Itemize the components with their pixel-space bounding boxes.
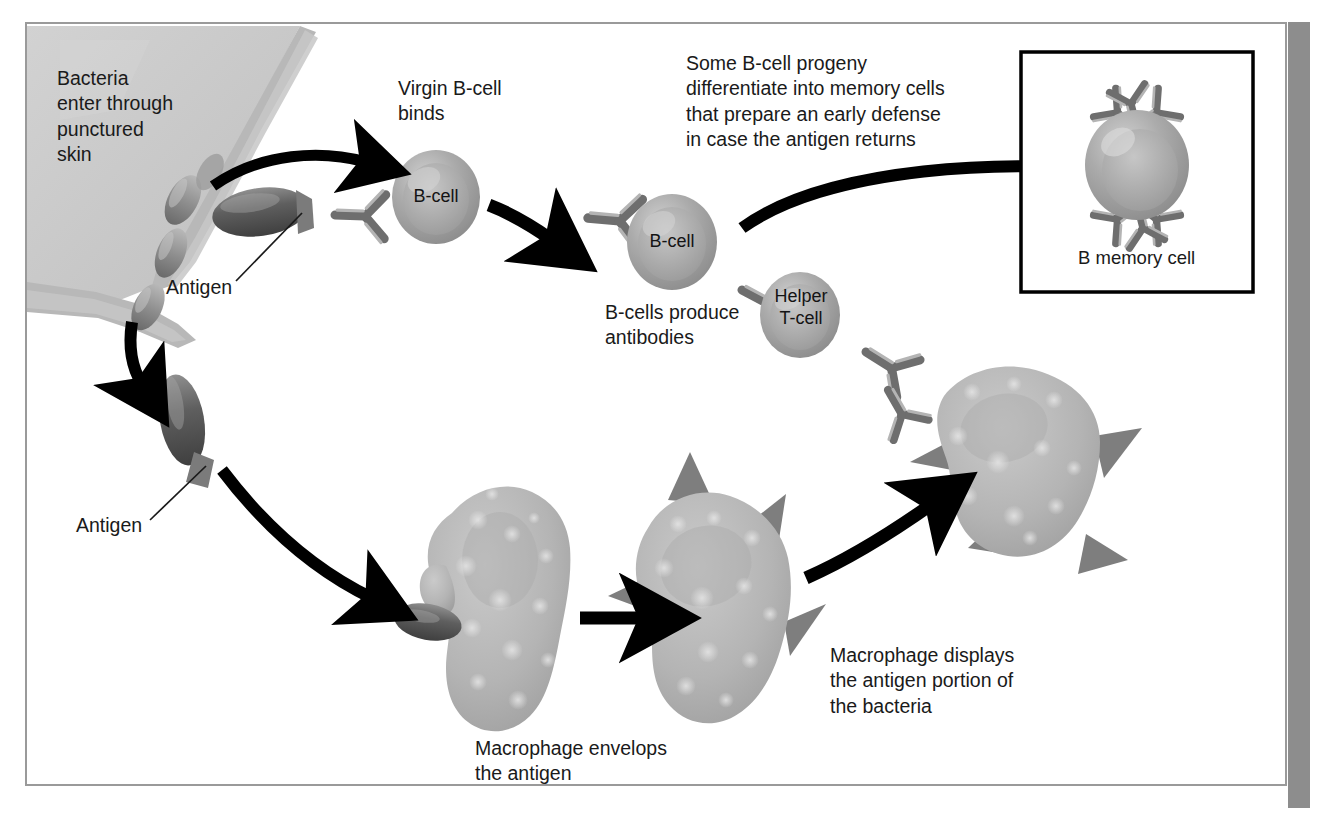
label-b-memory-cell: B memory cell: [1078, 246, 1195, 270]
macrophage-displays-middle: [608, 452, 826, 723]
label-antigen-top: Antigen: [166, 275, 232, 300]
label-helper-t-cell: Helper T-cell: [766, 286, 836, 329]
label-bcell-2: B-cell: [642, 231, 702, 253]
label-antigen-bottom: Antigen: [76, 513, 142, 538]
label-macrophage-displays: Macrophage displays the antigen portion …: [830, 643, 1014, 719]
diagram-canvas: [0, 0, 1330, 830]
bacterium-with-antigen-bottom: [152, 371, 214, 488]
label-macrophage-envelops: Macrophage envelops the antigen: [475, 736, 667, 787]
antibody-on-bacterium-top: [334, 189, 386, 243]
label-bacteria-enter: Bacteria enter through punctured skin: [57, 66, 173, 167]
macrophage-displays-right: [910, 367, 1142, 574]
label-bcell-1: B-cell: [406, 186, 466, 208]
label-memory-explanation: Some B-cell progeny differentiate into m…: [686, 51, 945, 152]
arrow-bcell1-to-bcell2: [489, 205, 552, 240]
figure-page: Bacteria enter through punctured skin An…: [0, 0, 1330, 830]
arrow-macrophage2-to-macrophage3: [806, 504, 932, 578]
label-bcells-produce-antibodies: B-cells produce antibodies: [605, 300, 739, 351]
leader-antigen-bottom: [150, 466, 206, 520]
macrophage-envelops: [391, 487, 570, 732]
label-virgin-bcell-binds: Virgin B-cell binds: [398, 76, 502, 127]
arrow-antigen-to-macrophage: [222, 470, 372, 598]
